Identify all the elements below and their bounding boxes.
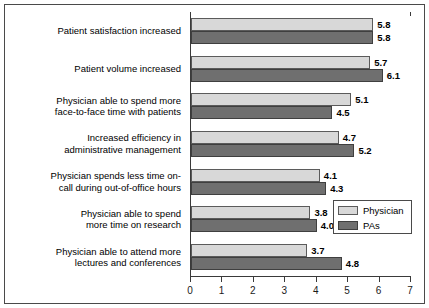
category-label: Physician able to spendmore time on rese… (8, 201, 186, 239)
bar-group-row: Physician able to attend morelectures an… (0, 238, 429, 276)
bar-pas (191, 182, 326, 195)
bar-physician (191, 131, 339, 144)
legend-item: PAs (338, 219, 407, 232)
x-axis-tick-label: 6 (369, 285, 389, 296)
x-axis-tick-label: 2 (243, 285, 263, 296)
bar-value-label: 5.2 (358, 145, 371, 156)
category-label: Physician spends less time on-call durin… (8, 163, 186, 201)
bar-pas (191, 219, 317, 232)
x-axis-tick-label: 4 (306, 285, 326, 296)
category-label-line: call during out-of-office hours (59, 182, 181, 194)
x-axis-tick (284, 277, 285, 282)
bars-container: 4.75.2 (191, 125, 429, 163)
bar-value-label: 5.8 (377, 32, 390, 43)
category-label: Patient satisfaction increased (8, 12, 186, 50)
category-label: Patient volume increased (8, 50, 186, 88)
category-label-line: Physician spends less time on- (51, 170, 181, 182)
bar-group-row: Physician spends less time on-call durin… (0, 163, 429, 201)
x-axis-tick (190, 277, 191, 282)
category-label-line: Physician able to attend more (56, 246, 181, 258)
bar-pas (191, 257, 342, 270)
category-label-line: Patient volume increased (74, 63, 181, 75)
category-label-line: face-to-face time with patients (55, 106, 181, 118)
bar-value-label: 4.1 (324, 170, 337, 181)
category-label: Increased efficiency inadministrative ma… (8, 125, 186, 163)
bar-pas (191, 69, 383, 82)
bars-container: 5.14.5 (191, 87, 429, 125)
bar-value-label: 4.7 (343, 132, 356, 143)
bar-physician (191, 18, 373, 31)
x-axis-tick-label: 1 (211, 285, 231, 296)
x-axis-tick-label: 3 (274, 285, 294, 296)
legend-label: Physician (363, 206, 404, 216)
x-axis-tick (379, 277, 380, 282)
category-label: Physician able to spend moreface-to-face… (8, 87, 186, 125)
legend-swatch-icon (338, 221, 358, 230)
bars-container: 5.76.1 (191, 50, 429, 88)
bar-pas (191, 106, 332, 119)
x-axis-tick-label: 0 (180, 285, 200, 296)
chart-legend: PhysicianPAs (333, 200, 412, 234)
x-axis-tick (410, 277, 411, 282)
x-axis-tick (347, 277, 348, 282)
bar-group-row: Patient satisfaction increased5.85.8 (0, 12, 429, 50)
bar-value-label: 5.8 (377, 19, 390, 30)
category-label-line: administrative management (64, 144, 181, 156)
legend-label: PAs (363, 221, 380, 231)
bars-container: 5.85.8 (191, 12, 429, 50)
bar-pas (191, 144, 354, 157)
x-axis-tick (253, 277, 254, 282)
category-label-line: Physician able to spend more (56, 95, 181, 107)
bar-value-label: 3.8 (314, 207, 327, 218)
bars-container: 4.14.3 (191, 163, 429, 201)
category-label-line: Patient satisfaction increased (57, 25, 181, 37)
bar-value-label: 4.5 (336, 107, 349, 118)
bar-physician (191, 206, 310, 219)
x-axis-tick-label: 5 (337, 285, 357, 296)
bar-physician (191, 244, 307, 257)
bar-group-row: Patient volume increased5.76.1 (0, 50, 429, 88)
bar-value-label: 4.3 (330, 183, 343, 194)
bar-value-label: 5.1 (355, 94, 368, 105)
bar-pas (191, 31, 373, 44)
bar-value-label: 6.1 (387, 70, 400, 81)
bar-physician (191, 93, 351, 106)
legend-swatch-icon (338, 206, 358, 215)
category-label-line: Increased efficiency in (87, 132, 181, 144)
bar-value-label: 4.0 (321, 220, 334, 231)
category-label-line: lectures and conferences (75, 257, 181, 269)
bar-value-label: 3.7 (311, 245, 324, 256)
x-axis-tick-label: 7 (400, 285, 420, 296)
bar-value-label: 4.8 (346, 258, 359, 269)
chart-figure: 01234567 Patient satisfaction increased5… (0, 0, 429, 308)
bars-container: 3.74.8 (191, 238, 429, 276)
bar-group-row: Physician able to spend moreface-to-face… (0, 87, 429, 125)
category-label-line: more time on research (86, 219, 181, 231)
x-axis-tick (221, 277, 222, 282)
category-label: Physician able to attend morelectures an… (8, 238, 186, 276)
bar-physician (191, 56, 370, 69)
bar-value-label: 5.7 (374, 57, 387, 68)
bar-group-row: Increased efficiency inadministrative ma… (0, 125, 429, 163)
x-axis-tick (316, 277, 317, 282)
category-label-line: Physician able to spend (81, 208, 181, 220)
legend-item: Physician (338, 204, 407, 217)
bar-physician (191, 169, 320, 182)
